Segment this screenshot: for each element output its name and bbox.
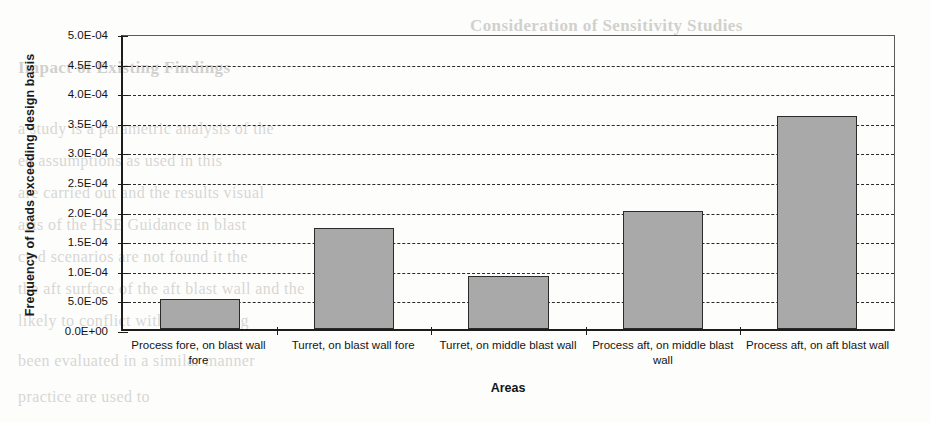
y-axis-tick-label: 1.0E-04 (68, 266, 108, 278)
y-axis-tick-label: 1.5E-04 (68, 236, 108, 248)
x-axis-tick-labels: Process fore, on blast wall foreTurret, … (121, 338, 895, 368)
y-axis-tick-label: 5.0E-04 (68, 29, 108, 41)
bar-chart: Frequency of loads exceeding design basi… (0, 0, 931, 423)
y-axis-tick-labels: 5.0E-044.5E-044.0E-043.5E-043.0E-042.5E-… (46, 35, 108, 331)
bar[interactable] (623, 211, 703, 329)
x-axis-title: Areas (121, 381, 895, 395)
x-axis-tick-label: Turret, on blast wall fore (276, 338, 431, 368)
y-axis-title-label: Frequency of loads exceeding design basi… (23, 54, 37, 317)
bar[interactable] (777, 116, 857, 329)
bar[interactable] (314, 228, 394, 329)
y-axis-title: Frequency of loads exceeding design basi… (20, 30, 40, 340)
bar-slot (277, 36, 431, 329)
x-axis-tick-label: Turret, on middle blast wall (431, 338, 586, 368)
y-axis-tick-label: 5.0E-05 (68, 295, 108, 307)
plot-area (121, 35, 895, 331)
bar-slot (431, 36, 585, 329)
y-axis-tick-label: 4.0E-04 (68, 88, 108, 100)
y-axis-tick-mark (118, 332, 128, 333)
x-axis-tick-label: Process aft, on aft blast wall (740, 338, 895, 368)
y-axis-tick-label: 2.5E-04 (68, 177, 108, 189)
y-axis-tick-label: 4.5E-04 (68, 59, 108, 71)
chart-page: Consideration of Sensitivity Studies Imp… (0, 0, 931, 423)
x-axis-tick-label: Process fore, on blast wall fore (121, 338, 276, 368)
bar-slot (740, 36, 894, 329)
x-axis-tick-label: Process aft, on middle blast wall (585, 338, 740, 368)
bar[interactable] (468, 276, 548, 329)
bar[interactable] (160, 299, 240, 329)
x-axis-tick-mark (431, 327, 432, 335)
x-axis-tick-mark (277, 327, 278, 335)
x-axis-tick-mark (586, 327, 587, 335)
bar-slot (586, 36, 740, 329)
y-axis-tick-label: 2.0E-04 (68, 207, 108, 219)
y-axis-tick-label: 3.0E-04 (68, 147, 108, 159)
y-axis-tick-label: 3.5E-04 (68, 118, 108, 130)
y-axis-tick-label: 0.0E+00 (65, 325, 108, 337)
x-axis-tick-mark (740, 327, 741, 335)
bar-slot (123, 36, 277, 329)
bar-series (123, 36, 894, 329)
